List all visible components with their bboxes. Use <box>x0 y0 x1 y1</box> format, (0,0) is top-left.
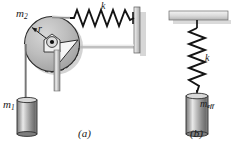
spring-constant-label-b: k <box>205 53 209 63</box>
pulley-axle-dot <box>50 40 54 44</box>
panel-a <box>17 7 146 136</box>
effective-mass-label: meff <box>200 99 214 110</box>
support-rod <box>54 50 60 91</box>
hanging-mass-label: m1 <box>3 99 15 111</box>
horizontal-spring <box>70 10 134 26</box>
m1-bottom-cap <box>17 132 37 137</box>
m1-top-cap <box>17 97 37 102</box>
panel-a-caption: (a) <box>78 128 91 139</box>
wall-support <box>134 7 140 53</box>
vertical-spring <box>189 28 205 92</box>
wall-shadow <box>140 12 146 56</box>
ceiling-support <box>169 11 228 20</box>
pulley-mass-label: m2 <box>16 8 28 20</box>
ceiling-shadow <box>173 20 231 24</box>
panel-b <box>169 11 231 137</box>
panel-b-caption: (b) <box>190 128 203 139</box>
radius-label: r <box>38 24 42 34</box>
m1-body <box>17 100 37 134</box>
mass-m1-block <box>17 97 37 136</box>
spring-cord-highlight <box>52 16 70 17</box>
spring-cord-to-pulley <box>52 17 70 18</box>
spring-constant-label-a: k <box>101 1 105 11</box>
